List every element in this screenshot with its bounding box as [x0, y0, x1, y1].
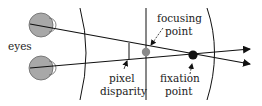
pixel-disparity-label-line2: disparity [100, 85, 147, 97]
pixel-disparity-label-line1: pixel [109, 72, 135, 84]
fixation-point-label-line2: point [165, 85, 193, 97]
fixation-point-dot [188, 50, 197, 59]
focusing-point-dot [142, 48, 150, 56]
fixation-point-label-line1: fixation [160, 72, 200, 84]
focusing-point-leader [151, 28, 163, 45]
focusing-point-label-line2: point [165, 25, 193, 37]
right-curved-surface [207, 8, 215, 100]
left-curved-surface [80, 8, 86, 100]
eyes-label: eyes [8, 40, 32, 52]
stereo-diagram: eyes focusing point pixel disparity fixa… [0, 0, 262, 106]
pixel-disparity-leader [124, 61, 127, 69]
focusing-point-label-line1: focusing [157, 12, 202, 24]
